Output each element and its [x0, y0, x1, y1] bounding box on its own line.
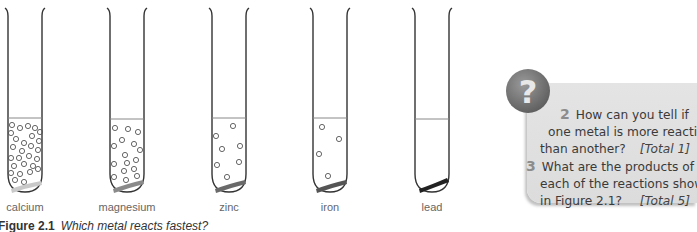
tube-label: calcium [0, 201, 65, 213]
caption-text: Which metal reacts fastest? [61, 219, 208, 232]
question-number: 2 [560, 106, 570, 122]
question-total: [Total 1] [640, 141, 690, 158]
test-tube-magnesium [104, 6, 150, 196]
test-tube-zinc [206, 6, 252, 196]
question-number: 3 [526, 158, 536, 174]
figure-caption: Figure 2.1Which metal reacts fastest? [0, 219, 208, 232]
test-tube-lead [409, 6, 455, 196]
test-tube-calcium [2, 6, 48, 196]
test-tube-iron [307, 6, 353, 196]
question-2: 2How can you tell if one metal is more r… [540, 106, 690, 158]
question-list: 2How can you tell if one metal is more r… [540, 106, 690, 210]
question-total: [Total 5] [640, 193, 690, 210]
figure-2-1: calcium magnesium zinc [0, 0, 480, 232]
tube-label: lead [392, 201, 472, 213]
caption-number: Figure 2.1 [0, 219, 55, 232]
tube-label: zinc [189, 201, 269, 213]
tube-label: iron [290, 201, 370, 213]
tube-label: magnesium [87, 201, 167, 213]
question-3: 3What are the products of each of the re… [526, 158, 690, 210]
